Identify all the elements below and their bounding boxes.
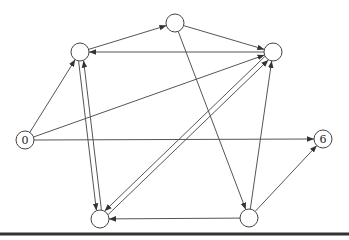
edge-nT-to-nR (184, 26, 265, 50)
graph-node-nL (71, 43, 89, 61)
edge-nBR-to-n6 (255, 146, 317, 212)
graph-node-nR (264, 43, 282, 61)
graph-node-nBL (91, 210, 109, 228)
node-circle (240, 209, 258, 227)
edge-nBL-to-nL (84, 61, 102, 210)
edge-nBR-to-nBL (109, 218, 240, 219)
graph-node-nT (166, 14, 184, 32)
edge-n0-to-n6 (34, 139, 314, 140)
node-label: 6 (320, 133, 327, 146)
graph-node-n0: 0 (16, 131, 34, 149)
graph-node-nBR (240, 209, 258, 227)
nodes-layer: 06 (16, 14, 332, 228)
directed-graph: 06 (0, 0, 349, 240)
edge-n0-to-nR (34, 55, 265, 137)
edge-nBL-to-nR (108, 60, 268, 215)
node-circle (91, 210, 109, 228)
edge-nBR-to-nR (250, 61, 271, 209)
graph-node-n6: 6 (314, 130, 332, 148)
node-circle (166, 14, 184, 32)
node-circle (264, 43, 282, 61)
edge-nL-to-nT (89, 26, 167, 50)
node-circle (71, 43, 89, 61)
edge-nL-to-nBL (79, 61, 97, 210)
edge-nR-to-nBL (105, 57, 265, 212)
node-label: 0 (22, 134, 29, 147)
edge-nT-to-nBR (178, 31, 246, 209)
edge-n0-to-nL (30, 60, 75, 133)
